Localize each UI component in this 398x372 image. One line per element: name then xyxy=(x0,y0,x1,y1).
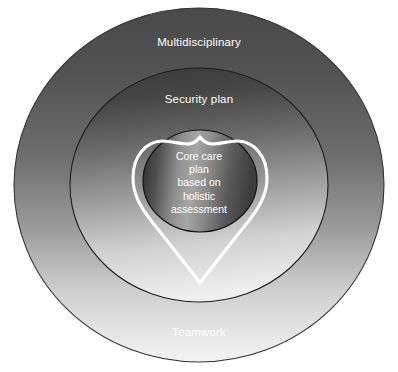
diagram-container: Multidisciplinary Security plan Teamwork… xyxy=(0,0,398,372)
inner-ring-shape xyxy=(143,130,257,232)
concentric-circles-diagram xyxy=(0,0,398,372)
